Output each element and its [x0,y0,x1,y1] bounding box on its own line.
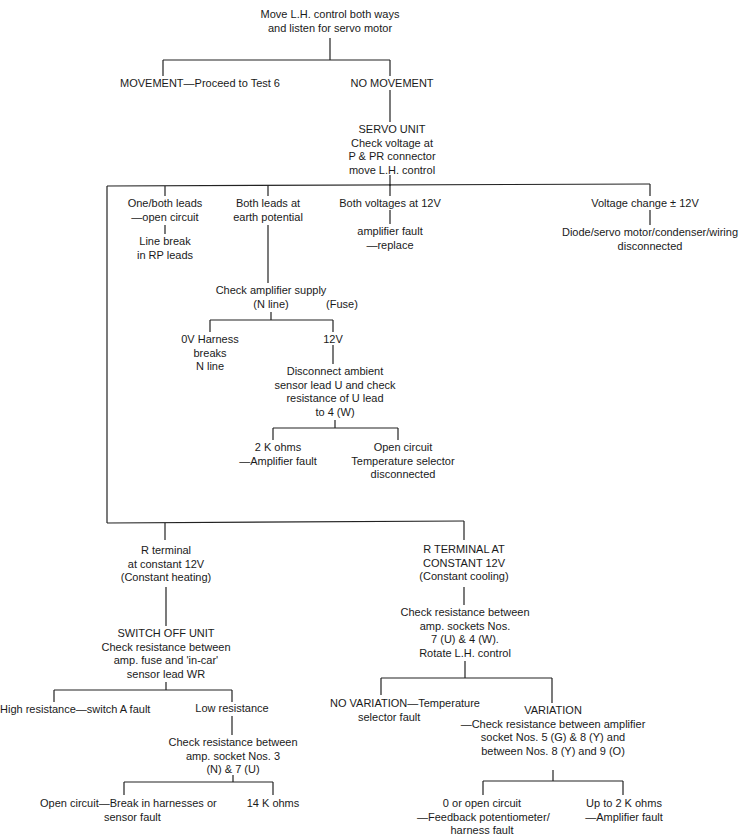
node-open-circuit-temp: Open circuit Temperature selector discon… [343,441,463,482]
node-servo-unit-line-1: SERVO UNIT [330,123,454,137]
node-14k-ohms-line-1: 14 K ohms [243,797,303,811]
node-start-line-1: Move L.H. control both ways [230,8,430,22]
node-no-movement-line-1: NO MOVEMENT [340,77,444,91]
node-ov-harness: 0V Harness breaks N line [175,333,245,374]
node-r-terminal-heating: R terminal at constant 12V (Constant hea… [116,544,216,585]
node-r-terminal-cooling-line-1: R TERMINAL AT [414,543,514,557]
node-check-amp-supply: Check amplifier supply (N line) [206,284,336,311]
node-14k-ohms: 14 K ohms [243,797,303,811]
node-no-movement: NO MOVEMENT [340,77,444,91]
node-no-variation: NO VARIATION—Temperature selector fault [330,697,470,724]
node-zero-open-line-3: harness fault [417,824,547,838]
node-switch-off-unit: SWITCH OFF UNIT Check resistance between… [101,627,231,681]
node-zero-open-line-2: —Feedback potentiometer/ [417,811,547,825]
node-fuse-line-1: (Fuse) [322,298,362,312]
node-fuse: (Fuse) [322,298,362,312]
node-check-sockets-7-4-line-4: Rotate L.H. control [399,647,531,661]
node-diode-servo-line-1: Diode/servo motor/condenser/wiring [550,226,743,240]
node-12v-line-1: 12V [313,333,353,347]
node-both-leads-earth-line-2: earth potential [218,211,318,225]
node-zero-open-line-1: 0 or open circuit [417,797,547,811]
node-ov-harness-line-3: N line [175,360,245,374]
node-check-socket-3-7-line-1: Check resistance between [168,736,298,750]
node-start: Move L.H. control both ways and listen f… [230,8,430,35]
node-disconnect-ambient: Disconnect ambient sensor lead U and che… [270,365,400,419]
node-high-resistance: High resistance—switch A fault [0,703,146,717]
node-ov-harness-line-1: 0V Harness [175,333,245,347]
node-variation-line-2: —Check resistance between amplifier [458,718,648,732]
node-diode-servo: Diode/servo motor/condenser/wiring disco… [550,226,743,253]
node-disconnect-ambient-line-3: resistance of U lead [270,392,400,406]
node-disconnect-ambient-line-2: sensor lead U and check [270,379,400,393]
node-up-to-2k-line-1: Up to 2 K ohms [579,797,669,811]
node-check-sockets-7-4-line-2: amp. sockets Nos. [399,620,531,634]
node-open-circuit-break-line-1: Open circuit—Break in harnesses or [40,797,215,811]
node-servo-unit-line-4: move L.H. control [330,164,454,178]
node-switch-off-unit-line-3: amp. fuse and 'in-car' [101,654,231,668]
node-amplifier-fault-replace-line-2: —replace [340,239,440,253]
node-diode-servo-line-2: disconnected [550,240,743,254]
node-movement: MOVEMENT—Proceed to Test 6 [100,77,300,91]
node-up-to-2k: Up to 2 K ohms —Amplifier fault [579,797,669,824]
node-2k-ohms-line-2: —Amplifier fault [233,455,323,469]
node-check-socket-3-7-line-3: (N) & 7 (U) [168,763,298,777]
node-both-voltages-12v-line-1: Both voltages at 12V [325,197,455,211]
node-disconnect-ambient-line-1: Disconnect ambient [270,365,400,379]
node-open-circuit-temp-line-3: disconnected [343,468,463,482]
node-high-resistance-line-1: High resistance—switch A fault [0,703,146,717]
node-voltage-change-line-1: Voltage change ± 12V [575,197,715,211]
node-open-circuit-temp-line-1: Open circuit [343,441,463,455]
node-low-resistance-line-1: Low resistance [192,702,272,716]
node-variation-line-4: between Nos. 8 (Y) and 9 (O) [458,745,648,759]
node-r-terminal-cooling-line-3: (Constant cooling) [414,570,514,584]
node-2k-ohms: 2 K ohms —Amplifier fault [233,441,323,468]
node-switch-off-unit-line-1: SWITCH OFF UNIT [101,627,231,641]
node-check-amp-supply-line-2: (N line) [206,298,336,312]
node-check-sockets-7-4-line-1: Check resistance between [399,606,531,620]
node-both-leads-earth: Both leads at earth potential [218,197,318,224]
node-servo-unit-line-2: Check voltage at [330,137,454,151]
node-variation-line-1: VARIATION [458,704,648,718]
node-zero-open: 0 or open circuit —Feedback potentiomete… [417,797,547,838]
node-low-resistance: Low resistance [192,702,272,716]
node-voltage-change: Voltage change ± 12V [575,197,715,211]
node-one-both-leads: One/both leads —open circuit [115,197,215,224]
node-line-break-line-1: Line break [125,235,205,249]
node-up-to-2k-line-2: —Amplifier fault [579,811,669,825]
node-r-terminal-heating-line-2: at constant 12V [116,558,216,572]
node-12v: 12V [313,333,353,347]
node-one-both-leads-line-1: One/both leads [115,197,215,211]
node-check-sockets-7-4-line-3: 7 (U) & 4 (W). [399,633,531,647]
node-amplifier-fault-replace-line-1: amplifier fault [340,225,440,239]
node-open-circuit-break-line-2: sensor fault [40,811,215,825]
node-both-voltages-12v: Both voltages at 12V [325,197,455,211]
node-switch-off-unit-line-4: sensor lead WR [101,668,231,682]
node-r-terminal-heating-line-3: (Constant heating) [116,571,216,585]
node-servo-unit: SERVO UNIT Check voltage at P & PR conne… [330,123,454,177]
node-one-both-leads-line-2: —open circuit [115,211,215,225]
node-r-terminal-cooling: R TERMINAL AT CONSTANT 12V (Constant coo… [414,543,514,584]
node-no-variation-line-2: selector fault [330,711,470,725]
node-ov-harness-line-2: breaks [175,347,245,361]
node-variation: VARIATION —Check resistance between ampl… [458,704,648,758]
node-switch-off-unit-line-2: Check resistance between [101,641,231,655]
node-movement-line-1: MOVEMENT—Proceed to Test 6 [100,77,300,91]
node-open-circuit-temp-line-2: Temperature selector [343,455,463,469]
node-check-socket-3-7-line-2: amp. socket Nos. 3 [168,750,298,764]
node-no-variation-line-1: NO VARIATION—Temperature [330,697,470,711]
node-r-terminal-cooling-line-2: CONSTANT 12V [414,557,514,571]
node-line-break: Line break in RP leads [125,235,205,262]
node-line-break-line-2: in RP leads [125,249,205,263]
node-disconnect-ambient-line-4: to 4 (W) [270,406,400,420]
node-start-line-2: and listen for servo motor [230,22,430,36]
node-amplifier-fault-replace: amplifier fault —replace [340,225,440,252]
node-check-amp-supply-line-1: Check amplifier supply [206,284,336,298]
node-servo-unit-line-3: P & PR connector [330,150,454,164]
node-variation-line-3: socket Nos. 5 (G) & 8 (Y) and [458,731,648,745]
node-check-socket-3-7: Check resistance between amp. socket Nos… [168,736,298,777]
node-2k-ohms-line-1: 2 K ohms [233,441,323,455]
node-open-circuit-break: Open circuit—Break in harnesses or senso… [40,797,215,824]
node-check-sockets-7-4: Check resistance between amp. sockets No… [399,606,531,660]
node-both-leads-earth-line-1: Both leads at [218,197,318,211]
node-r-terminal-heating-line-1: R terminal [116,544,216,558]
